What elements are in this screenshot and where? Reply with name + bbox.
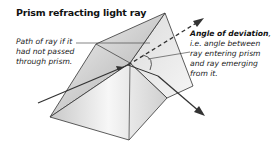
angle-description: i.e. angle between ray entering prism an…	[190, 39, 261, 78]
undeviated-path-label: Path of ray if it had not passed through…	[16, 37, 86, 67]
angle-heading: Angle of deviation	[190, 29, 268, 38]
angle-suffix: ,	[268, 29, 270, 38]
arrowhead-dashed	[193, 18, 204, 27]
angle-of-deviation-label: Angle of deviation, i.e. angle between r…	[190, 29, 272, 79]
diagram-title: Prism refracting light ray	[16, 7, 146, 18]
